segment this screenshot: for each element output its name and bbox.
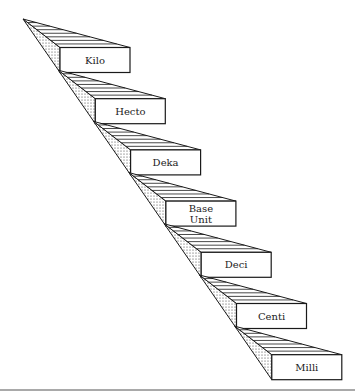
step-label: Centi xyxy=(258,311,285,322)
step-deci: Deci xyxy=(164,224,271,277)
step-label: Deka xyxy=(153,157,179,168)
step-label: Kilo xyxy=(85,55,105,66)
step-label: Deci xyxy=(225,259,248,270)
step-kilo: Kilo xyxy=(23,19,130,73)
step-label: Milli xyxy=(295,362,318,373)
step-milli: Milli xyxy=(235,326,342,380)
metric-staircase-diagram: KiloHectoDekaBaseUnitDeciCentiMilli xyxy=(0,0,355,392)
step-hecto: Hecto xyxy=(58,70,165,124)
step-centi: Centi xyxy=(200,275,307,329)
step-label: Hecto xyxy=(115,106,145,117)
step-label: Unit xyxy=(190,214,212,225)
step-label: Base xyxy=(189,203,213,214)
step-base-unit: BaseUnit xyxy=(129,173,236,227)
step-deka: Deka xyxy=(94,121,201,174)
